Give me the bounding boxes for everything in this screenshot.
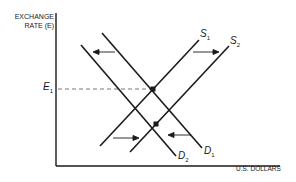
d2-label: D2 <box>178 150 189 163</box>
arrowhead-icon <box>133 136 139 141</box>
equilibrium-point-1 <box>151 87 156 92</box>
arrowhead-icon <box>93 50 99 55</box>
s2-label: S2 <box>230 35 240 48</box>
arrowhead-icon <box>213 50 219 55</box>
y-axis-label: EXCHANGE RATE (E) <box>15 12 54 30</box>
s1-label: S1 <box>200 28 210 41</box>
x-axis-label: U.S. DOLLARS <box>236 165 281 172</box>
e1-label: E1 <box>43 81 53 94</box>
arrowhead-icon <box>168 133 174 138</box>
equilibrium-point-2 <box>154 122 159 127</box>
d1-label: D1 <box>204 145 215 158</box>
